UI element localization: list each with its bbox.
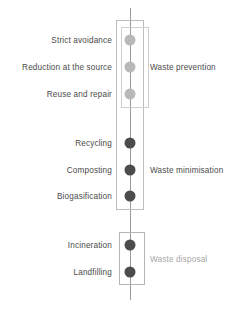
stage-label-strict-avoidance: Strict avoidance [51, 36, 112, 45]
stage-dot-reduction-at-the-source [125, 62, 136, 73]
category-label-waste-minimisation: Waste minimisation [150, 166, 223, 175]
stage-label-incineration: Incineration [68, 241, 112, 250]
category-label-waste-prevention: Waste prevention [150, 63, 216, 72]
stage-dot-landfilling [125, 267, 136, 278]
stage-label-recycling: Recycling [75, 139, 112, 148]
stage-dot-composting [125, 165, 136, 176]
stage-label-biogasification: Biogasification [57, 192, 112, 201]
stage-label-landfilling: Landfilling [73, 268, 112, 277]
stage-dot-incineration [125, 240, 136, 251]
stage-label-reduction-at-the-source: Reduction at the source [22, 63, 112, 72]
waste-hierarchy-diagram: Strict avoidance Reduction at the source… [0, 0, 244, 310]
stage-dot-reuse-and-repair [125, 89, 136, 100]
stage-dot-recycling [125, 138, 136, 149]
stage-dot-strict-avoidance [125, 35, 136, 46]
stage-dot-biogasification [125, 191, 136, 202]
category-label-waste-disposal: Waste disposal [150, 255, 207, 264]
stage-label-composting: Composting [67, 166, 112, 175]
stage-label-reuse-and-repair: Reuse and repair [47, 90, 112, 99]
